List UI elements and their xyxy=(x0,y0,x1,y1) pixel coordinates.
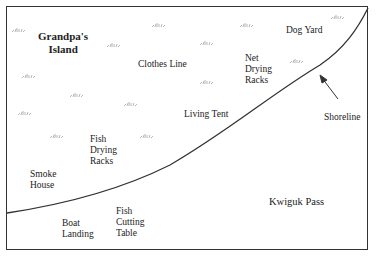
label-boat-landing: Boat Landing xyxy=(62,218,94,240)
label-smoke-house: Smoke House xyxy=(30,169,56,191)
label-fish-cutting-table: Fish Cutting Table xyxy=(116,206,145,239)
label-living-tent: Living Tent xyxy=(184,109,228,120)
label-fish-drying-racks: Fish Drying Racks xyxy=(90,134,117,167)
label-net-drying-racks: Net Drying Racks xyxy=(245,53,272,86)
island-title: Grandpa's Island xyxy=(38,30,88,56)
label-clothes-line: Clothes Line xyxy=(138,59,187,70)
label-shoreline: Shoreline xyxy=(324,112,360,123)
label-dog-yard: Dog Yard xyxy=(286,25,322,36)
label-kwiguk-pass: Kwiguk Pass xyxy=(269,196,324,207)
shoreline-arrow xyxy=(320,75,338,99)
